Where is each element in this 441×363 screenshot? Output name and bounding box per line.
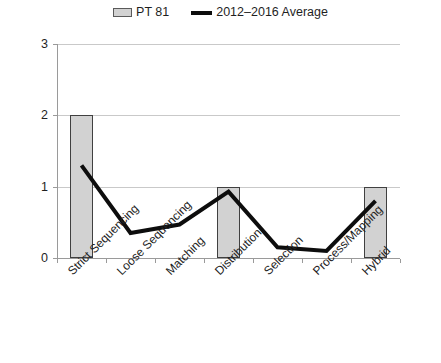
x-axis-tick-mark	[106, 259, 107, 263]
x-axis-tick-mark	[253, 259, 254, 263]
x-axis-tick-mark	[302, 259, 303, 263]
chart-figure: PT 81 2012–2016 Average 3 2 1 0	[0, 0, 441, 363]
x-axis-tick-label: Matching	[163, 234, 207, 278]
x-axis-tick-mark	[400, 259, 401, 263]
y-axis-tick-label: 2	[18, 108, 48, 122]
gridline	[57, 115, 400, 116]
gridline	[57, 44, 400, 45]
x-axis-tick-mark	[204, 259, 205, 263]
plot-area: 3 2 1 0 Strict SequencingLoose Sequ	[0, 0, 441, 363]
x-axis-tick-label: Selection	[261, 233, 306, 278]
y-axis-tick-label: 0	[18, 251, 48, 265]
x-axis-tick-mark	[351, 259, 352, 263]
y-axis-tick-label: 3	[18, 37, 48, 51]
x-axis-tick-mark	[155, 259, 156, 263]
bar	[70, 115, 93, 258]
line-series-layer	[0, 0, 441, 363]
y-axis-tick-label: 1	[18, 180, 48, 194]
y-axis-line	[57, 44, 58, 259]
x-axis-tick-mark	[57, 259, 58, 263]
